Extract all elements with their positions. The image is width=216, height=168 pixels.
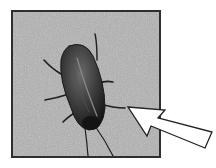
arrow-icon: [0, 0, 216, 168]
